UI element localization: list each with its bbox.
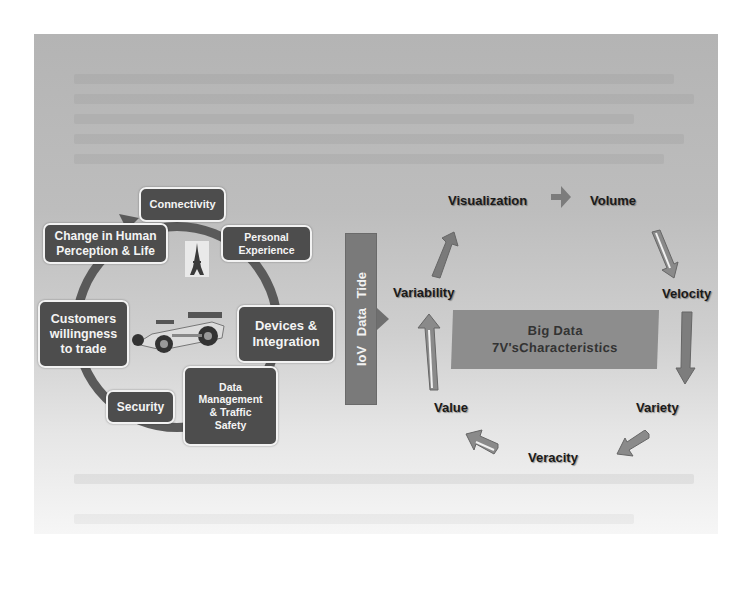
ghost-text-line	[74, 154, 664, 164]
box-devices-integration: Devices & Integration	[237, 305, 335, 363]
label-visualization: Visualization	[448, 193, 527, 208]
ghost-text-line	[74, 94, 694, 104]
arrow-up-left-icon	[464, 428, 500, 458]
box-security: Security	[106, 390, 175, 424]
race-car-icon	[132, 304, 228, 356]
box-devices-integration-label: Devices & Integration	[249, 318, 323, 349]
big-data-title-line2: 7V'sCharacteristics	[491, 340, 617, 356]
tide-arrow-icon	[377, 308, 389, 330]
eiffel-tower-icon	[185, 241, 209, 277]
arrow-down-right-icon	[650, 228, 680, 280]
label-veracity: Veracity	[528, 450, 578, 465]
ghost-text-line	[74, 134, 684, 144]
arrow-up-right-icon	[430, 230, 460, 280]
box-personal-experience: Personal Experience	[221, 225, 312, 262]
arrow-down-left-icon	[615, 430, 651, 460]
label-velocity: Velocity	[662, 286, 711, 301]
iov-data-tide-label: IoV Data Tide	[354, 272, 369, 366]
arrow-down-icon	[672, 310, 696, 386]
box-security-label: Security	[117, 400, 164, 414]
label-variability: Variability	[393, 285, 454, 300]
box-connectivity: Connectivity	[139, 187, 226, 222]
big-data-title-line1: Big Data	[527, 323, 583, 339]
arrow-right-icon	[549, 184, 573, 210]
ghost-text-line	[74, 514, 634, 524]
box-change-human-perception-label: Change in Human Perception & Life	[45, 229, 166, 258]
arrow-up-icon	[416, 312, 442, 392]
box-data-management: Data Management & Traffic Safety	[183, 366, 278, 446]
ghost-text-line	[74, 474, 694, 484]
label-volume: Volume	[590, 193, 636, 208]
box-data-management-label: Data Management & Traffic Safety	[197, 381, 264, 431]
box-change-human-perception: Change in Human Perception & Life	[43, 223, 168, 264]
label-variety: Variety	[636, 400, 679, 415]
box-connectivity-label: Connectivity	[149, 198, 215, 211]
ghost-text-line	[74, 74, 674, 84]
box-customers-willingness-label: Customers willingness to trade	[46, 312, 121, 357]
ghost-text-line	[74, 114, 634, 124]
box-personal-experience-label: Personal Experience	[231, 231, 302, 256]
iov-data-tide-bar: IoV Data Tide	[345, 233, 377, 405]
big-data-center-box: Big Data 7V'sCharacteristics	[451, 310, 659, 369]
label-value: Value	[434, 400, 468, 415]
box-customers-willingness: Customers willingness to trade	[38, 300, 129, 368]
